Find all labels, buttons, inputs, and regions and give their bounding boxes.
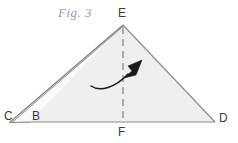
vertex-label-f: F xyxy=(118,126,125,138)
figure-caption: Fig. 3 xyxy=(58,5,92,21)
vertex-label-c: C xyxy=(4,110,13,122)
vertex-label-e: E xyxy=(118,7,126,19)
vertex-label-b: B xyxy=(32,110,40,122)
vertex-label-d: D xyxy=(219,112,228,124)
figure-canvas: Fig. 3 E C B F D xyxy=(0,0,238,143)
